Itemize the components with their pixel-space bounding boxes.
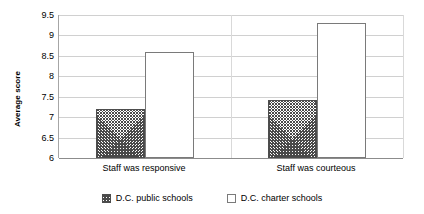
- empty-swatch-icon: [227, 194, 236, 203]
- y-axis-tick-label: 6: [28, 154, 54, 163]
- y-axis-tick-label: 8.5: [28, 52, 54, 61]
- x-axis-baseline: [59, 158, 403, 159]
- y-axis-tick-labels: 9.5 9 8.5 8 7.5 7 6.5 6: [28, 0, 54, 214]
- bar: [268, 100, 317, 158]
- y-axis-tick-label: 9: [28, 31, 54, 40]
- legend-entry-public: D.C. public schools: [102, 193, 193, 203]
- plot-area: [58, 15, 404, 158]
- legend-entry-charter: D.C. charter schools: [227, 193, 323, 203]
- y-axis-tick-label: 7.5: [28, 93, 54, 102]
- bar: [145, 52, 194, 158]
- hatched-swatch-icon: [102, 194, 111, 203]
- y-axis-title: Average score: [11, 19, 25, 179]
- x-axis-category-label: Staff was courteous: [236, 163, 396, 174]
- legend-label: D.C. charter schools: [241, 193, 323, 203]
- bar: [317, 23, 366, 158]
- bar-chart-figure: Average score 9.5 9 8.5 8 7.5 7 6.5 6 St…: [0, 0, 424, 214]
- y-axis-tick-label: 8: [28, 72, 54, 81]
- y-axis-tick-label: 7: [28, 113, 54, 122]
- x-axis-category-labels: Staff was responsive Staff was courteous: [58, 163, 402, 177]
- x-axis-category-label: Staff was responsive: [64, 163, 224, 174]
- bar: [96, 109, 145, 158]
- y-axis-tick-label: 6.5: [28, 134, 54, 143]
- chart-legend: D.C. public schools D.C. charter schools: [0, 190, 424, 206]
- y-axis-tick-label: 9.5: [28, 11, 54, 20]
- legend-label: D.C. public schools: [116, 193, 193, 203]
- category-divider: [231, 15, 232, 158]
